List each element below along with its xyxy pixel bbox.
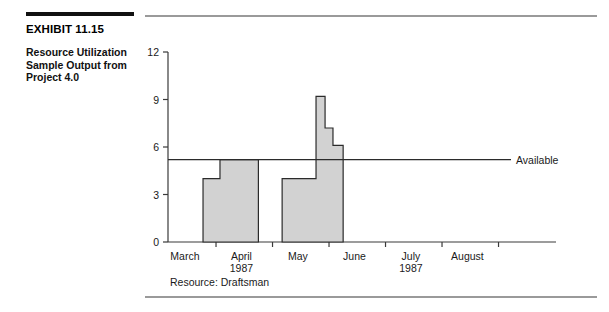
y-axis-tick-label: 3 [153, 189, 159, 201]
resource-utilization-chart: 036912MarchApril1987MayJuneJuly1987Augus… [0, 0, 609, 312]
resource-caption: Resource: Draftsman [170, 276, 269, 288]
x-axis-month-label: March [170, 250, 199, 262]
usage-bar [282, 96, 343, 242]
y-axis-tick-label: 9 [153, 94, 159, 106]
x-axis-month-label: June [343, 250, 366, 262]
y-axis-tick-label: 12 [147, 46, 159, 58]
x-axis-month-label: August [451, 250, 484, 262]
usage-step-series [203, 96, 343, 242]
x-axis-month-label: July [402, 250, 421, 262]
x-axis-year-label: 1987 [230, 262, 254, 274]
x-axis-month-label: April [231, 250, 252, 262]
usage-bar [203, 160, 258, 242]
x-axis-month-label: May [288, 250, 309, 262]
y-axis-tick-label: 0 [153, 236, 159, 248]
y-axis-tick-label: 6 [153, 141, 159, 153]
exhibit-page: EXHIBIT 11.15 Resource Utilization Sampl… [0, 0, 609, 312]
available-line-label: Available [516, 154, 559, 166]
x-axis-year-label: 1987 [399, 262, 423, 274]
